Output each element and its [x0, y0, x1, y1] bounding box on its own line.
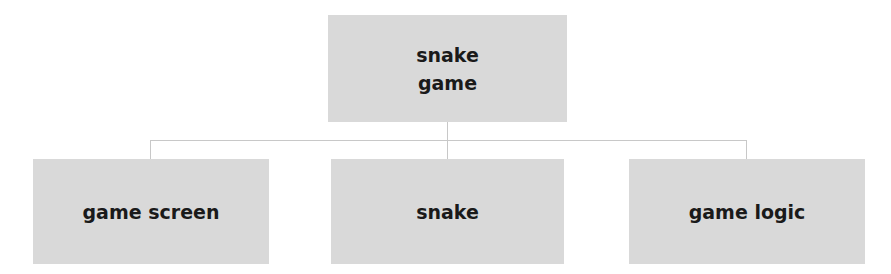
connector-right-drop	[746, 140, 747, 159]
node-label: snake	[416, 198, 479, 226]
node-root-snake-game: snake game	[328, 15, 567, 122]
node-label: snake game	[416, 41, 479, 97]
node-label: game screen	[83, 198, 220, 226]
node-game-logic: game logic	[629, 159, 865, 264]
connector-left-drop	[150, 140, 151, 159]
node-snake: snake	[331, 159, 564, 264]
node-game-screen: game screen	[33, 159, 269, 264]
node-label: game logic	[689, 198, 806, 226]
connector-horizontal-bar	[150, 140, 747, 141]
